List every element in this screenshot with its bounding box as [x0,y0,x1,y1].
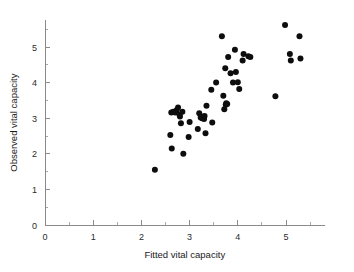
x-axis-tick-labels: 012345 [42,232,288,242]
scatter-plot-figure: 012345 012345 Fitted vital capacity Obse… [0,0,354,272]
data-point [186,134,192,140]
y-tick-label-5: 5 [32,43,37,53]
data-point [213,80,219,86]
data-point [282,22,288,28]
x-tick-label-3: 3 [187,232,192,242]
y-tick-label-4: 4 [32,78,37,88]
x-tick-label-5: 5 [283,232,288,242]
data-point [187,119,193,125]
x-tick-label-1: 1 [91,232,96,242]
y-tick-label-2: 2 [32,149,37,159]
y-tick-label-0: 0 [32,221,37,231]
data-point [167,132,173,138]
x-tick-label-4: 4 [235,232,240,242]
data-point [232,47,238,53]
data-point [202,113,208,119]
data-point [219,33,225,39]
data-point [169,145,175,151]
data-point [228,70,234,76]
y-axis-title: Observed vital capacity [8,73,19,171]
x-axis-title: Fitted vital capacity [144,249,225,260]
x-tick-label-2: 2 [139,232,144,242]
data-point [272,93,278,99]
data-point [195,126,201,132]
data-point [288,58,294,64]
data-point [247,54,253,60]
data-point [222,65,228,71]
y-tick-label-1: 1 [32,185,37,195]
y-tick-label-3: 3 [32,114,37,124]
data-point [225,54,231,60]
data-point [220,93,226,99]
data-point [175,105,181,111]
data-point [287,51,293,57]
y-axis-tick-labels: 012345 [32,43,37,231]
data-point [236,86,242,92]
data-point-group [152,22,304,173]
data-point [180,151,186,157]
data-point [233,69,239,75]
data-point [240,58,246,64]
data-point [179,109,185,115]
data-point [203,130,209,136]
data-point [209,119,215,125]
data-point [235,79,241,85]
x-tick-label-0: 0 [42,232,47,242]
plot-canvas: 012345 012345 Fitted vital capacity Obse… [0,0,354,272]
data-point [224,101,230,107]
data-point [208,87,214,93]
data-point [296,33,302,39]
data-point [178,120,184,126]
data-point [152,167,158,173]
data-point [297,55,303,61]
data-point [203,103,209,109]
